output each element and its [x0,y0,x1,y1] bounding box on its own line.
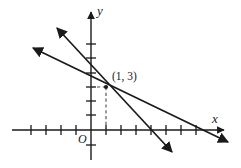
axes-group [12,12,224,160]
origin-label: O [78,133,87,145]
line-steep [57,28,172,152]
coordinate-plane-svg [0,0,241,168]
graph-figure: x y O (1, 3) [0,0,241,168]
y-axis-label: y [97,4,103,17]
intersection-point-dot [104,85,108,89]
line-shallow [33,48,228,142]
point-coordinate-label: (1, 3) [112,71,137,83]
x-axis-label: x [212,112,218,125]
point-guide-lines [91,87,106,130]
